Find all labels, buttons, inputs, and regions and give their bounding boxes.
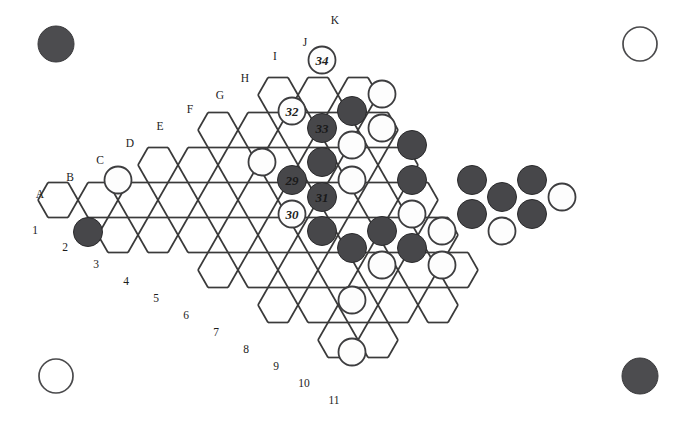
black-stone[interactable]	[518, 200, 547, 229]
row-label-3: 3	[93, 258, 99, 270]
numbered-stone[interactable]: 33	[308, 114, 337, 143]
stone[interactable]	[518, 200, 547, 229]
white-stone[interactable]	[429, 218, 456, 245]
black-stone[interactable]	[398, 131, 427, 160]
stone[interactable]	[549, 184, 576, 211]
stone[interactable]	[458, 200, 487, 229]
column-label-e: E	[156, 120, 163, 132]
hex-board-svg: 343233293130 ABCDEFGHIJK1234567891011	[0, 0, 695, 424]
stone[interactable]	[74, 218, 103, 247]
row-label-4: 4	[123, 275, 129, 287]
column-label-b: B	[66, 171, 74, 183]
numbered-stone[interactable]: 30	[279, 201, 306, 228]
white-stone[interactable]	[369, 81, 396, 108]
stone[interactable]	[398, 234, 427, 263]
numbered-stone[interactable]: 34	[309, 47, 336, 74]
row-label-6: 6	[183, 309, 189, 321]
row-label-1: 1	[32, 224, 38, 236]
bottom-right-corner-stone	[622, 358, 658, 394]
black-stone[interactable]	[338, 97, 367, 126]
black-stone[interactable]	[398, 234, 427, 263]
black-stone[interactable]	[308, 217, 337, 246]
white-stone[interactable]	[339, 287, 366, 314]
stone[interactable]	[369, 252, 396, 279]
black-stone[interactable]	[398, 166, 427, 195]
stone-move-number: 31	[315, 190, 329, 205]
numbered-stone[interactable]: 31	[308, 183, 337, 212]
stone[interactable]	[458, 166, 487, 195]
stone[interactable]	[369, 115, 396, 142]
stone[interactable]	[308, 217, 337, 246]
stone[interactable]	[338, 234, 367, 263]
stone[interactable]	[368, 217, 397, 246]
stone[interactable]	[398, 131, 427, 160]
column-label-a: A	[36, 188, 45, 200]
column-label-d: D	[126, 137, 134, 149]
stone[interactable]	[398, 166, 427, 195]
stone-move-number: 34	[315, 53, 330, 68]
numbered-stone[interactable]: 29	[278, 166, 307, 195]
column-label-h: H	[241, 72, 249, 84]
bottom-left-corner-stone	[39, 359, 73, 393]
column-label-i: I	[273, 50, 277, 62]
black-stone[interactable]	[458, 200, 487, 229]
row-label-9: 9	[273, 360, 279, 372]
stone[interactable]	[339, 287, 366, 314]
stone[interactable]	[339, 132, 366, 159]
column-label-c: C	[96, 154, 104, 166]
white-stone[interactable]	[429, 252, 456, 279]
stone-move-number: 33	[315, 121, 330, 136]
white-stone[interactable]	[105, 167, 132, 194]
column-label-j: J	[303, 36, 308, 48]
stone[interactable]	[429, 252, 456, 279]
stone[interactable]	[338, 97, 367, 126]
stone[interactable]	[429, 218, 456, 245]
black-stone[interactable]	[74, 218, 103, 247]
stone-move-number: 30	[285, 207, 300, 222]
stone[interactable]	[105, 167, 132, 194]
stone[interactable]	[249, 149, 276, 176]
stone[interactable]	[369, 81, 396, 108]
white-stone[interactable]	[489, 218, 516, 245]
black-stone[interactable]	[308, 148, 337, 177]
column-label-f: F	[187, 103, 193, 115]
black-stone[interactable]	[518, 166, 547, 195]
stone-move-number: 32	[285, 104, 300, 119]
row-label-2: 2	[62, 241, 68, 253]
stone[interactable]	[399, 201, 426, 228]
black-stone[interactable]	[368, 217, 397, 246]
white-stone[interactable]	[339, 167, 366, 194]
stone[interactable]	[488, 183, 517, 212]
white-stone[interactable]	[369, 115, 396, 142]
white-stone[interactable]	[549, 184, 576, 211]
stone[interactable]	[518, 166, 547, 195]
row-label-7: 7	[213, 326, 219, 338]
row-label-11: 11	[328, 394, 339, 406]
stone[interactable]	[339, 167, 366, 194]
white-stone[interactable]	[399, 201, 426, 228]
row-label-10: 10	[298, 377, 310, 389]
stone-move-number: 29	[285, 173, 300, 188]
stone[interactable]	[308, 148, 337, 177]
black-stone[interactable]	[458, 166, 487, 195]
top-left-corner-stone	[38, 26, 74, 62]
row-label-5: 5	[153, 292, 159, 304]
column-label-k: K	[331, 14, 340, 26]
white-stone[interactable]	[339, 132, 366, 159]
black-stone[interactable]	[488, 183, 517, 212]
white-stone[interactable]	[339, 339, 366, 366]
white-stone[interactable]	[369, 252, 396, 279]
white-stone[interactable]	[249, 149, 276, 176]
black-stone[interactable]	[338, 234, 367, 263]
top-right-corner-stone	[623, 27, 657, 61]
column-label-g: G	[216, 89, 224, 101]
stone[interactable]	[489, 218, 516, 245]
row-label-8: 8	[243, 343, 249, 355]
numbered-stone[interactable]: 32	[279, 98, 306, 125]
hex-board-container: 343233293130 ABCDEFGHIJK1234567891011	[0, 0, 695, 424]
stone[interactable]	[339, 339, 366, 366]
